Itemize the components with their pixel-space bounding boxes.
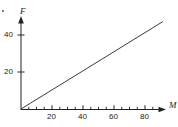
x-tick-label-40: 40 (78, 113, 87, 121)
chart-figure: F M 40 20 20 40 60 80 (0, 0, 178, 127)
x-tick-label-60: 60 (109, 113, 118, 121)
y-tick-label-20: 20 (4, 68, 13, 76)
x-tick-label-80: 80 (140, 113, 149, 121)
y-tick-label-40: 40 (4, 31, 13, 39)
y-axis-label: F (20, 7, 26, 16)
y-axis (18, 16, 25, 110)
data-line-series-0 (21, 22, 163, 110)
chart-plot-area (0, 0, 178, 127)
x-tick-label-20: 20 (47, 113, 56, 121)
x-axis-label: M (169, 101, 177, 110)
